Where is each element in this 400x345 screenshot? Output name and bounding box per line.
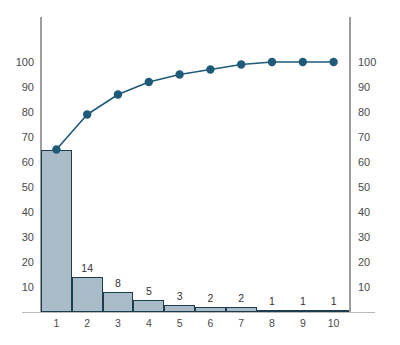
bar-value-label: 3 xyxy=(177,291,183,302)
bar xyxy=(226,307,257,312)
y-axis-left-tick-label: 50 xyxy=(22,182,34,193)
y-axis-left-tick-label: 80 xyxy=(22,107,34,118)
y-axis-left-tick-label: 40 xyxy=(22,207,34,218)
x-axis-tick-label: 6 xyxy=(207,318,213,329)
y-axis-right-tick-label: 40 xyxy=(358,207,370,218)
x-axis-tick-label: 1 xyxy=(53,318,59,329)
pareto-chart: 102030405060708090100 102030405060708090… xyxy=(0,0,400,345)
y-axis-left-tick-label: 90 xyxy=(22,82,34,93)
bar xyxy=(257,310,288,313)
y-axis-right-tick-label: 90 xyxy=(358,82,370,93)
bar-value-label: 2 xyxy=(238,293,244,304)
bar xyxy=(318,310,349,313)
y-axis-left-tick-label: 10 xyxy=(22,282,34,293)
x-axis-tick-label: 9 xyxy=(300,318,306,329)
y-axis-right-tick-label: 50 xyxy=(358,182,370,193)
bar xyxy=(133,300,164,313)
x-axis-tick-label: 7 xyxy=(238,318,244,329)
y-axis-left-tick-label: 60 xyxy=(22,157,34,168)
x-axis-tick-label: 5 xyxy=(177,318,183,329)
y-axis-left-tick-label: 70 xyxy=(22,132,34,143)
y-axis-right-tick-label: 20 xyxy=(358,257,370,268)
x-axis-tick-label: 4 xyxy=(146,318,152,329)
x-axis-tick-label: 2 xyxy=(84,318,90,329)
bar xyxy=(72,277,103,312)
y-axis-right-tick-label: 10 xyxy=(358,282,370,293)
bar-value-label: 1 xyxy=(331,296,337,307)
bar xyxy=(287,310,318,313)
y-axis-right-tick-label: 60 xyxy=(358,157,370,168)
y-axis-left-tick-label: 30 xyxy=(22,232,34,243)
x-axis-baseline xyxy=(22,312,375,313)
bar xyxy=(164,305,195,313)
bar xyxy=(41,150,72,313)
bar-value-label: 5 xyxy=(146,286,152,297)
y-axis-right-tick-label: 30 xyxy=(358,232,370,243)
y-axis-right-tick-label: 70 xyxy=(358,132,370,143)
bar-value-label: 1 xyxy=(300,296,306,307)
y-axis-left-tick-label: 20 xyxy=(22,257,34,268)
y-axis-left-tick-label: 100 xyxy=(16,57,34,68)
y-axis-right-tick-label: 80 xyxy=(358,107,370,118)
y-axis-right-tick-label: 100 xyxy=(358,57,376,68)
bar-value-label: 2 xyxy=(207,293,213,304)
bar-value-label: 1 xyxy=(269,296,275,307)
bar-value-label: 8 xyxy=(115,278,121,289)
bar-value-label: 14 xyxy=(81,263,93,274)
x-axis-tick-label: 10 xyxy=(328,318,340,329)
bar xyxy=(103,292,134,312)
x-axis-tick-label: 8 xyxy=(269,318,275,329)
x-axis-tick-label: 3 xyxy=(115,318,121,329)
bar xyxy=(195,307,226,312)
